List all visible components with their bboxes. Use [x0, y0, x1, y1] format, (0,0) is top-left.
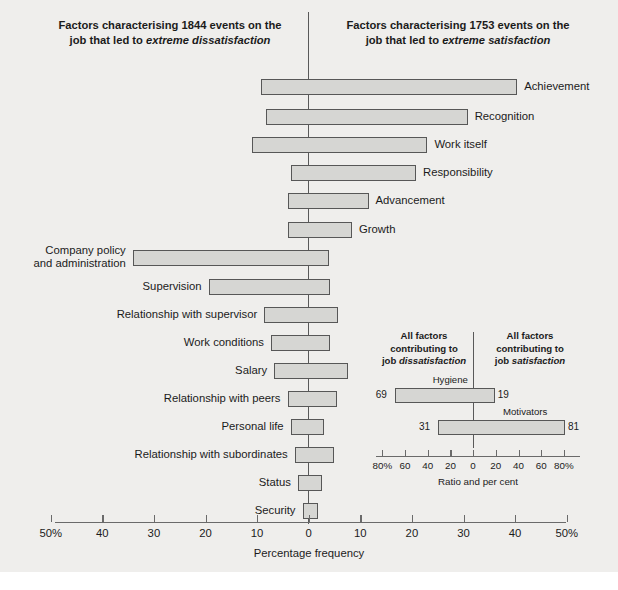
bar-row: Work itself: [0, 132, 618, 158]
inset-x-axis-tick: [405, 450, 406, 456]
inset-header-left-l1: All factors: [401, 330, 448, 341]
bar: [298, 475, 322, 491]
bar-label: Work conditions: [0, 336, 264, 349]
inset-header-left-emphasis: dissatisfaction: [399, 355, 466, 366]
inset-x-axis-tick: [496, 450, 497, 456]
inset-x-axis-tick: [541, 450, 542, 456]
inset-x-axis-tick: [382, 450, 383, 456]
bar: [261, 79, 517, 95]
bar: [291, 165, 416, 181]
x-axis-tick-label: 20: [392, 527, 432, 539]
bar: [274, 363, 348, 379]
bar: [288, 193, 369, 209]
bar: [266, 109, 467, 125]
inset-header-right-l2: contributing to: [496, 343, 564, 354]
inset-x-axis-tick: [519, 450, 520, 456]
bar-label-line: Company policy: [45, 244, 125, 256]
inset-x-axis-tick: [450, 450, 451, 456]
bar-label-line: Work conditions: [184, 336, 264, 348]
inset-chart-ratio: All factors contributing to job dissatis…: [378, 330, 590, 498]
bar-label: Status: [0, 476, 291, 489]
bar-label-line: Work itself: [434, 138, 487, 150]
bar: [288, 222, 353, 238]
bar: [209, 279, 330, 295]
inset-x-axis-tick: [473, 450, 474, 456]
bar-row: Growth: [0, 217, 618, 243]
x-axis-tick-label: 30: [444, 527, 484, 539]
bar: [295, 447, 334, 463]
bar-label-line: Status: [259, 476, 291, 488]
header-dissatisfaction: Factors characterising 1844 events on th…: [34, 18, 306, 48]
inset-header-right-l3-pre: job: [495, 355, 512, 366]
inset-x-axis-tick: [428, 450, 429, 456]
bar-label: Personal life: [0, 420, 284, 433]
bar-label-line: Relationship with peers: [164, 392, 281, 404]
inset-header-dissatisfaction: All factors contributing to job dissatis…: [376, 330, 472, 368]
x-axis-tick: [257, 515, 258, 522]
x-axis-tick: [154, 515, 155, 522]
bar-label: Relationship with supervisor: [0, 308, 257, 321]
bar-label: Security: [0, 504, 296, 517]
inset-x-axis-tick-label: 80%: [549, 460, 579, 471]
inset-header-left-l2: contributing to: [390, 343, 458, 354]
inset-x-axis-tick: [564, 450, 565, 456]
x-axis-tick-label: 0: [289, 527, 329, 539]
bar: [303, 503, 318, 519]
bar-row: Supervision: [0, 274, 618, 300]
bar: [264, 307, 338, 323]
bar: [271, 335, 330, 351]
figure-herzberg-two-factor: Factors characterising 1844 events on th…: [0, 0, 618, 590]
bar-label: Work itself: [434, 138, 487, 151]
bar-label: Relationship with subordinates: [0, 448, 288, 461]
bar-label-line: Advancement: [376, 194, 445, 206]
bar-row: Achievement: [0, 74, 618, 100]
bar-row: Advancement: [0, 188, 618, 214]
inset-bar-label: Hygiene: [433, 374, 468, 385]
bar: [252, 137, 427, 153]
x-axis-tick: [102, 515, 103, 522]
bar-row: Responsibility: [0, 160, 618, 186]
x-axis-line: [55, 522, 566, 523]
header-satisfaction: Factors characterising 1753 events on th…: [322, 18, 594, 48]
inset-header-right-l1: All factors: [507, 330, 554, 341]
inset-header-left-l3-pre: job: [382, 355, 399, 366]
x-axis-tick-label: 20: [186, 527, 226, 539]
bar-label: Supervision: [0, 280, 202, 293]
bar: [133, 250, 329, 266]
bar-label-line: Growth: [359, 223, 395, 235]
x-axis-tick: [206, 515, 207, 522]
bar-label: Salary: [0, 364, 267, 377]
inset-bar-value-left: 31: [419, 421, 430, 432]
inset-bar: [395, 388, 495, 403]
bar-label: Recognition: [475, 110, 535, 123]
x-axis-tick: [309, 515, 310, 522]
inset-header-right-emphasis: satisfaction: [512, 355, 565, 366]
bar-row: Recognition: [0, 104, 618, 130]
bar-label-line: Supervision: [143, 280, 202, 292]
bar-label: Growth: [359, 223, 395, 236]
x-axis-tick-label: 30: [134, 527, 174, 539]
x-axis-tick: [464, 515, 465, 522]
bar-label: Achievement: [524, 80, 589, 93]
bar-row: Relationship with supervisor: [0, 302, 618, 328]
x-axis-tick: [360, 515, 361, 522]
figure-footer-whitespace: [0, 572, 618, 590]
bar-label-line: and administration: [33, 257, 125, 269]
header-satisfaction-line2-pre: job that led to: [366, 34, 442, 46]
header-satisfaction-line1: Factors characterising 1753 events on th…: [346, 19, 569, 31]
x-axis-tick: [51, 515, 52, 522]
x-axis-tick-label: 40: [82, 527, 122, 539]
bar-label-line: Relationship with supervisor: [117, 308, 258, 320]
inset-bar-value-right: 19: [498, 389, 509, 400]
inset-bar-label: Motivators: [503, 406, 547, 417]
inset-header-satisfaction: All factors contributing to job satisfac…: [482, 330, 578, 368]
x-axis-title: Percentage frequency: [0, 547, 618, 559]
bar-label-line: Relationship with subordinates: [135, 448, 288, 460]
inset-bar-value-right: 81: [568, 421, 579, 432]
x-axis-tick: [515, 515, 516, 522]
bar-label-line: Personal life: [221, 420, 283, 432]
bar-label-line: Recognition: [475, 110, 535, 122]
bar: [291, 419, 324, 435]
inset-bar-value-left: 69: [376, 389, 387, 400]
header-dissatisfaction-line2-pre: job that led to: [70, 34, 146, 46]
